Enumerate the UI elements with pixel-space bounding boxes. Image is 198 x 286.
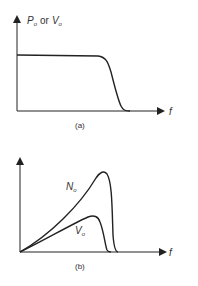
caption-a: (a) bbox=[75, 121, 85, 130]
response-curve-a bbox=[17, 55, 130, 111]
curve-v bbox=[20, 216, 111, 252]
caption-b: (b) bbox=[75, 262, 85, 271]
x-axis-label-a: f bbox=[169, 106, 173, 117]
figure-b: No Vo f (b) bbox=[20, 159, 173, 271]
x-axis-label-b: f bbox=[169, 247, 173, 258]
curve-label-v: Vo bbox=[75, 225, 86, 237]
y-axis-label-a: PoorVo bbox=[27, 15, 63, 27]
figure-a: PoorVo f (a) bbox=[17, 15, 173, 130]
diagram-canvas: PoorVo f (a) No Vo f (b) bbox=[0, 0, 198, 286]
curve-label-n: No bbox=[66, 181, 77, 193]
